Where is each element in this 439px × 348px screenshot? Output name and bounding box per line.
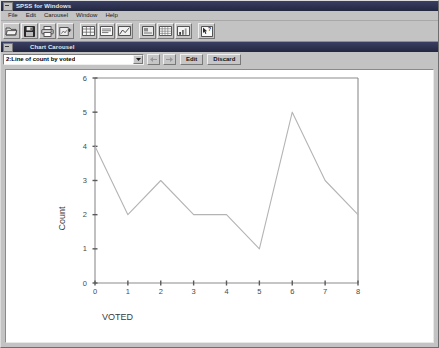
discard-button[interactable]: Discard [207,54,241,65]
toolbar-group-help: ? [198,23,216,39]
y-axis-tick-label: 6 [83,74,87,83]
menu-item-window[interactable]: Window [72,11,101,20]
y-axis-tick-label: 4 [83,142,87,151]
previous-chart-button[interactable] [147,54,160,65]
system-menu-icon[interactable] [3,2,13,11]
y-axis-tick-label: 0 [83,279,87,288]
y-axis-tick-label: 1 [83,244,87,253]
chart-line-series [95,112,358,249]
carousel-system-menu-icon[interactable] [3,43,13,52]
menu-item-file[interactable]: File [4,11,22,20]
print-icon [41,26,54,37]
x-axis-tick-label: 3 [192,287,196,296]
x-axis-tick-label: 4 [224,287,228,296]
grid-button[interactable] [157,23,174,39]
x-axis-tick-label: 1 [126,287,130,296]
save-file-button[interactable] [21,23,38,39]
x-axis-tick-label: 0 [93,287,97,296]
output-window-button[interactable] [98,23,115,39]
chart-carousel-title-bar[interactable]: Chart Carousel [1,42,438,52]
y-axis-tick-label: 2 [83,210,87,219]
screen: SPSS for Windows File Edit Carousel Wind… [0,0,439,348]
help-pointer-button[interactable]: ? [198,23,215,39]
grid-icon [159,26,172,36]
toolbar-group-tools [139,23,193,39]
menu-item-help[interactable]: Help [101,11,121,20]
chart-window-icon [118,26,131,36]
menu-item-edit[interactable]: Edit [22,11,40,20]
toolbar-group-file [3,23,75,39]
application-title-bar[interactable]: SPSS for Windows [1,1,438,11]
svg-text:?: ? [208,26,211,32]
x-axis-tick-label: 6 [290,287,294,296]
syntax-window-icon [142,26,154,36]
open-file-icon [5,26,18,37]
toolbar: ? [1,21,438,42]
bar-chart-icon [177,26,190,36]
y-axis-tick-label: 3 [83,176,87,185]
chart-window-button[interactable] [116,23,133,39]
chart-client-area: 0123456012345678CountVOTED [5,69,434,343]
spss-application-window: SPSS for Windows File Edit Carousel Wind… [0,0,439,348]
x-axis-tick-label: 7 [323,287,327,296]
export-chart-icon [59,26,72,37]
y-axis-title: Count [57,206,67,231]
save-file-icon [24,26,35,37]
chart-carousel-title: Chart Carousel [16,43,74,51]
toolbar-group-windows [80,23,134,39]
chart-select-value: 2:Line of count by voted [4,55,75,64]
y-axis-tick-label: 5 [83,108,87,117]
export-chart-button[interactable] [57,23,74,39]
bar-chart-button[interactable] [175,23,192,39]
help-pointer-icon: ? [201,26,213,37]
chart-select-dropdown[interactable]: 2:Line of count by voted [3,54,144,65]
next-chart-button[interactable] [163,54,176,65]
edit-button[interactable]: Edit [180,54,203,65]
syntax-window-button[interactable] [139,23,156,39]
data-editor-icon [82,26,95,36]
menu-item-carousel[interactable]: Carousel [40,11,72,20]
x-axis-title: VOTED [102,312,134,322]
menu-bar: File Edit Carousel Window Help [1,11,438,21]
x-axis-tick-label: 2 [159,287,163,296]
output-window-icon [100,26,113,36]
application-title: SPSS for Windows [16,2,71,10]
chevron-down-icon[interactable] [133,55,143,64]
x-axis-tick-label: 5 [257,287,261,296]
line-chart: 0123456012345678CountVOTED [6,70,434,343]
print-button[interactable] [39,23,56,39]
data-editor-button[interactable] [80,23,97,39]
carousel-control-strip: 2:Line of count by voted Edit Discard [1,52,438,67]
x-axis-tick-label: 8 [356,287,360,296]
open-file-button[interactable] [3,23,20,39]
